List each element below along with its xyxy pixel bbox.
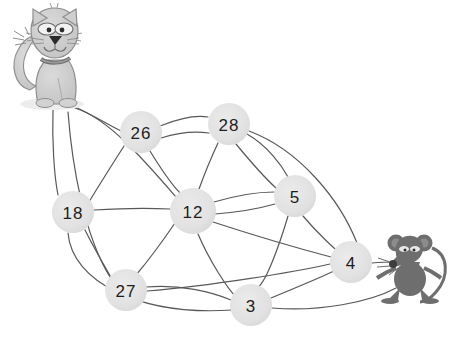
node-4[interactable]: 4: [330, 241, 372, 283]
node-3[interactable]: 3: [230, 284, 272, 326]
edge-28-5-outer: [247, 134, 288, 177]
edge-12-3: [198, 234, 236, 297]
edge-28-12: [199, 143, 218, 189]
cat-illustration: [13, 3, 84, 110]
node-5-label: 5: [290, 188, 300, 207]
edge-28-5-inner: [236, 144, 276, 188]
edge-3-4: [271, 271, 334, 298]
edge-26-28-upper: [160, 116, 208, 126]
node-26-label: 26: [131, 124, 152, 143]
puzzle-canvas: 26 28 18 12 5 4: [0, 0, 466, 345]
edge-12-5-upper: [214, 192, 274, 202]
edge-12-27: [136, 223, 175, 275]
node-12-label: 12: [183, 203, 204, 222]
node-5[interactable]: 5: [274, 175, 316, 217]
edge-27-3: [146, 286, 231, 300]
node-18[interactable]: 18: [52, 191, 94, 233]
edge-12-5-lower: [215, 204, 275, 214]
edge-cat-18: [53, 110, 58, 195]
edge-18-12: [94, 208, 170, 210]
node-26[interactable]: 26: [120, 111, 162, 153]
node-27[interactable]: 27: [105, 269, 147, 311]
node-27-label: 27: [116, 282, 137, 301]
node-3-label: 3: [246, 297, 256, 316]
edge-3-mouse: [272, 288, 396, 309]
node-28[interactable]: 28: [208, 103, 250, 145]
node-layer: 26 28 18 12 5 4: [52, 103, 372, 326]
node-18-label: 18: [63, 204, 84, 223]
node-28-label: 28: [219, 116, 240, 135]
mouse-illustration: [377, 235, 445, 305]
edge-26-18: [89, 146, 124, 202]
graph-svg: 26 28 18 12 5 4: [0, 0, 466, 345]
node-12[interactable]: 12: [170, 188, 216, 234]
node-4-label: 4: [346, 254, 356, 273]
edge-26-28-lower: [161, 132, 209, 138]
